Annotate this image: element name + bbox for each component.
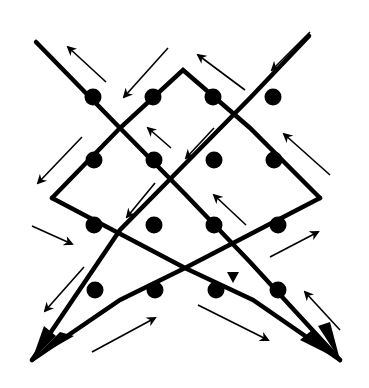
bead bbox=[266, 152, 283, 169]
bead bbox=[205, 89, 222, 106]
bead bbox=[265, 89, 282, 106]
chain-segment bbox=[36, 42, 340, 360]
bead bbox=[206, 217, 223, 234]
bead bbox=[86, 217, 103, 234]
flow-arrow-icon bbox=[68, 47, 106, 82]
small-arrowhead-icon bbox=[227, 272, 239, 283]
bead bbox=[147, 282, 164, 299]
flow-arrow-icon bbox=[198, 55, 245, 90]
small-arrowhead-icon bbox=[227, 272, 239, 283]
bead bbox=[146, 217, 163, 234]
bead bbox=[85, 89, 102, 106]
flow-arrow-icon bbox=[270, 232, 318, 257]
lattice-diagram bbox=[0, 0, 369, 388]
bead bbox=[206, 152, 223, 169]
flow-arrow-icon bbox=[32, 226, 72, 244]
bead bbox=[146, 152, 163, 169]
flow-arrow-icon bbox=[92, 318, 155, 352]
flow-arrow-icon bbox=[198, 305, 268, 340]
bead bbox=[87, 282, 104, 299]
bead-chains bbox=[32, 36, 340, 360]
flow-arrow-icon bbox=[148, 128, 171, 148]
bead bbox=[86, 152, 103, 169]
bead bbox=[270, 217, 287, 234]
bead bbox=[145, 89, 162, 106]
flow-arrow-icon bbox=[272, 32, 310, 70]
bead bbox=[208, 282, 225, 299]
bead bbox=[270, 282, 287, 299]
